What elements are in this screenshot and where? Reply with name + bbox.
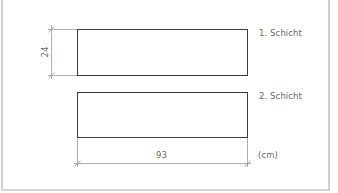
layer-1-rect <box>78 30 248 76</box>
layer-2-rect <box>78 93 248 138</box>
layer-2-label: 2. Schicht <box>259 91 302 101</box>
width-dimension-label: 93 <box>156 150 167 160</box>
height-dimension <box>48 25 77 79</box>
height-dimension-label: 24 <box>40 46 50 57</box>
unit-label: (cm) <box>258 150 278 160</box>
layer-1-label: 1. Schicht <box>259 28 302 38</box>
